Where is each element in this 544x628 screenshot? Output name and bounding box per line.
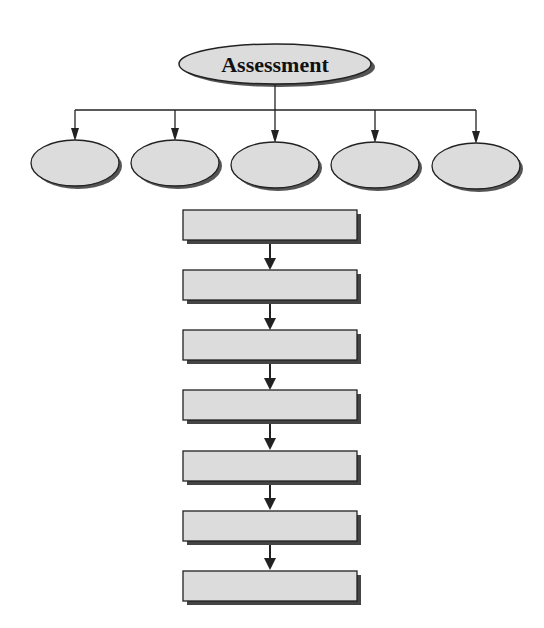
flow-box-2 (183, 270, 361, 304)
flow-arrow (264, 485, 276, 510)
flow-arrow (264, 545, 276, 570)
flow-box-1 (183, 210, 361, 244)
flow-arrow (264, 424, 276, 450)
branch-ellipse-1 (31, 140, 122, 189)
flow-boxes (183, 210, 361, 605)
flow-box-4 (183, 390, 361, 424)
flow-arrow (264, 244, 276, 270)
title-label: Assessment (221, 52, 329, 77)
flow-box-6 (183, 511, 361, 545)
flow-box-7 (183, 571, 361, 605)
flow-arrow (264, 364, 276, 390)
branch-connectors (75, 84, 476, 135)
branch-ellipse-2 (131, 140, 222, 189)
flow-box-5 (183, 451, 361, 485)
branch-ellipse-3 (231, 142, 322, 191)
branch-ellipses (31, 140, 523, 192)
flow-arrow (264, 304, 276, 330)
branch-ellipse-5 (432, 143, 523, 192)
branch-ellipse-4 (331, 142, 422, 191)
assessment-diagram: Assessment (0, 0, 544, 628)
flow-box-3 (183, 330, 361, 364)
title-node: Assessment (179, 44, 375, 87)
